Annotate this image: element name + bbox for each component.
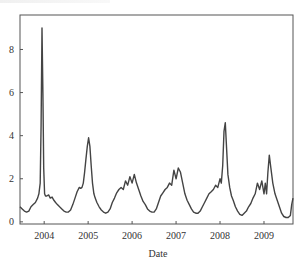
y-tick-label: 4 [9, 130, 14, 141]
x-tick-label: 2005 [78, 230, 98, 241]
x-tick-label: 2006 [122, 230, 142, 241]
y-tick-label: 8 [9, 44, 14, 55]
x-tick-label: 2007 [166, 230, 186, 241]
data-series-line [20, 28, 293, 218]
line-chart: 02468 200420052006200720082009 Date [0, 0, 306, 270]
x-tick-label: 2008 [210, 230, 230, 241]
x-tick-label: 2009 [254, 230, 274, 241]
y-tick-label: 2 [9, 173, 14, 184]
y-axis: 02468 [9, 44, 23, 227]
plot-frame [20, 15, 293, 224]
y-tick-label: 6 [9, 87, 14, 98]
y-tick-label: 0 [9, 216, 14, 227]
x-axis-title: Date [149, 248, 168, 259]
x-tick-label: 2004 [34, 230, 54, 241]
